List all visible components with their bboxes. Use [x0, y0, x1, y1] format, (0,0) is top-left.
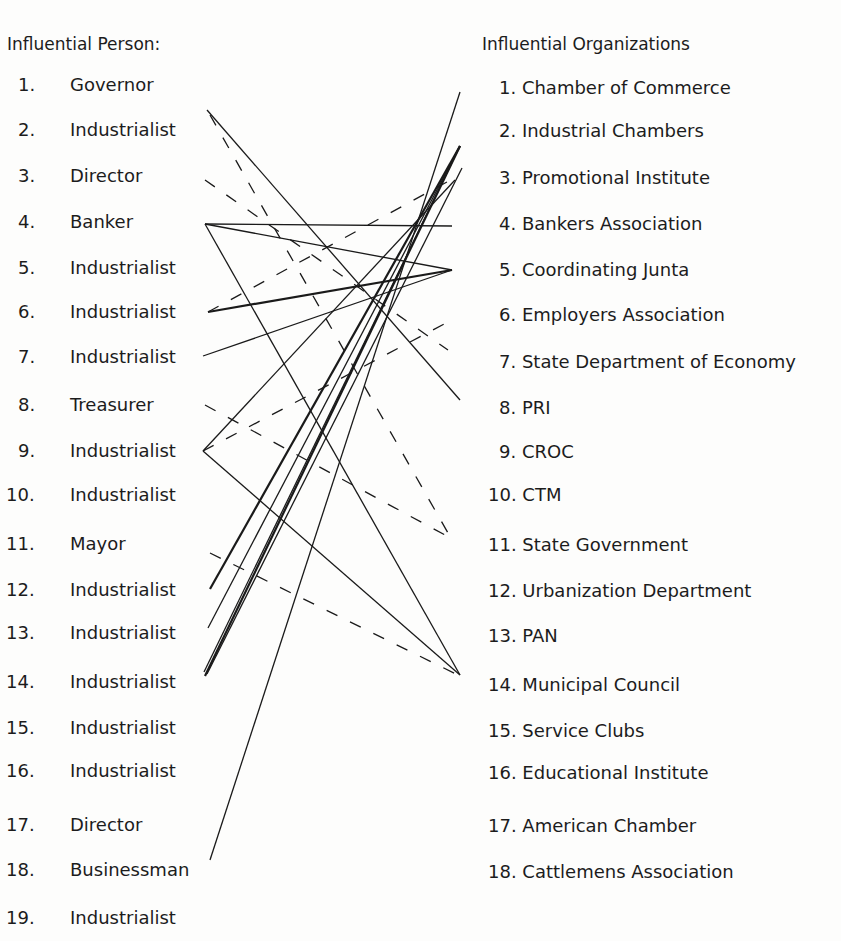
person-number: 11. [6, 533, 35, 555]
person-number: 9. [18, 440, 35, 462]
person-label: Governor [70, 74, 154, 96]
person-number: 13. [6, 622, 35, 644]
organization-item: 12. Urbanization Department [488, 580, 751, 602]
link-line [208, 270, 452, 312]
organization-item: 10. CTM [488, 484, 561, 506]
persons-column-title: Influential Person: [7, 34, 160, 54]
organizations-column-title: Influential Organizations [482, 34, 690, 54]
person-number: 7. [18, 346, 35, 368]
link-line [204, 150, 458, 672]
organization-item: 4. Bankers Association [499, 213, 703, 235]
organization-item: 15. Service Clubs [488, 720, 644, 742]
person-label: Industrialist [70, 717, 176, 739]
person-label: Director [70, 165, 142, 187]
person-number: 6. [18, 301, 35, 323]
person-label: Industrialist [70, 346, 176, 368]
person-label: Industrialist [70, 907, 176, 929]
person-number: 4. [18, 211, 35, 233]
person-label: Industrialist [70, 671, 176, 693]
person-number: 5. [18, 257, 35, 279]
person-number: 15. [6, 717, 35, 739]
person-number: 17. [6, 814, 35, 836]
organization-item: 1. Chamber of Commerce [499, 77, 731, 99]
link-line [207, 168, 462, 674]
link-line [208, 146, 460, 628]
person-label: Industrialist [70, 579, 176, 601]
person-number: 12. [6, 579, 35, 601]
person-number: 19. [6, 907, 35, 929]
person-number: 1. [18, 74, 35, 96]
organization-item: 14. Municipal Council [488, 674, 680, 696]
connection-lines [0, 0, 841, 941]
organization-item: 6. Employers Association [499, 304, 725, 326]
person-number: 2. [18, 119, 35, 141]
link-line [207, 110, 460, 400]
person-label: Businessman [70, 859, 189, 881]
person-number: 10. [6, 484, 35, 506]
organization-item: 13. PAN [488, 625, 558, 647]
person-label: Industrialist [70, 440, 176, 462]
person-label: Industrialist [70, 760, 176, 782]
person-label: Industrialist [70, 119, 176, 141]
link-line [210, 146, 460, 589]
person-label: Director [70, 814, 142, 836]
organization-item: 3. Promotional Institute [499, 167, 710, 189]
organization-item: 2. Industrial Chambers [499, 120, 704, 142]
organization-item: 7. State Department of Economy [499, 351, 796, 373]
person-label: Industrialist [70, 301, 176, 323]
person-label: Treasurer [70, 394, 154, 416]
person-number: 18. [6, 859, 35, 881]
organization-item: 8. PRI [499, 397, 551, 419]
person-number: 14. [6, 671, 35, 693]
organization-item: 17. American Chamber [488, 815, 696, 837]
organization-item: 9. CROC [499, 441, 574, 463]
person-label: Industrialist [70, 257, 176, 279]
organization-item: 18. Cattlemens Association [488, 861, 734, 883]
link-line [203, 270, 452, 356]
person-label: Banker [70, 211, 133, 233]
link-line [205, 180, 448, 350]
person-number: 3. [18, 165, 35, 187]
person-label: Mayor [70, 533, 126, 555]
link-line [210, 553, 458, 675]
person-label: Industrialist [70, 484, 176, 506]
organization-item: 11. State Government [488, 534, 688, 556]
person-number: 16. [6, 760, 35, 782]
person-label: Industrialist [70, 622, 176, 644]
link-line [208, 176, 458, 312]
person-number: 8. [18, 394, 35, 416]
link-line [210, 115, 448, 533]
organization-item: 5. Coordinating Junta [499, 259, 689, 281]
link-line [210, 92, 460, 860]
organization-item: 16. Educational Institute [488, 762, 708, 784]
